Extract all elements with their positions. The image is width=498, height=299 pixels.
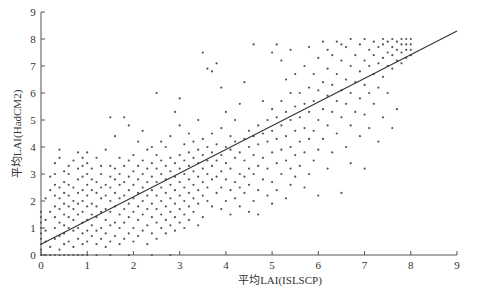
data-point [299, 116, 301, 118]
data-point [271, 108, 273, 110]
data-point [350, 162, 352, 164]
scatter-points [40, 38, 412, 256]
data-point [68, 216, 70, 218]
data-point [54, 173, 56, 175]
data-point [220, 186, 222, 188]
data-point [345, 146, 347, 148]
data-point [142, 213, 144, 215]
data-point [243, 192, 245, 194]
data-point [82, 243, 84, 245]
data-point [72, 219, 74, 221]
data-point [313, 100, 315, 102]
data-point [45, 219, 47, 221]
data-point [327, 124, 329, 126]
data-point [160, 200, 162, 202]
data-point [206, 68, 208, 70]
data-point [225, 146, 227, 148]
data-point [243, 176, 245, 178]
data-point [350, 92, 352, 94]
data-point [105, 149, 107, 151]
data-point [95, 192, 97, 194]
data-point [146, 208, 148, 210]
data-point [114, 168, 116, 170]
data-point [82, 189, 84, 191]
data-point [211, 151, 213, 153]
data-point [202, 154, 204, 156]
data-point [308, 111, 310, 113]
data-point [197, 203, 199, 205]
data-point [234, 119, 236, 121]
data-point [174, 203, 176, 205]
data-point [77, 203, 79, 205]
data-point [49, 211, 51, 213]
data-point [229, 168, 231, 170]
data-point [68, 195, 70, 197]
data-point [303, 103, 305, 105]
data-point [174, 162, 176, 164]
data-point [156, 92, 158, 94]
data-point [179, 222, 181, 224]
data-point [327, 68, 329, 70]
data-point [160, 141, 162, 143]
data-point [132, 154, 134, 156]
data-point [123, 208, 125, 210]
x-axis-ticks: 0123456789 [38, 251, 460, 271]
data-point [391, 38, 393, 40]
data-point [202, 51, 204, 53]
data-point [303, 127, 305, 129]
data-point [132, 184, 134, 186]
data-point [202, 138, 204, 140]
data-point [91, 224, 93, 226]
data-point [294, 154, 296, 156]
data-point [387, 51, 389, 53]
data-point [313, 130, 315, 132]
data-point [410, 38, 412, 40]
data-point [91, 168, 93, 170]
data-point [183, 186, 185, 188]
x-tick-label: 4 [223, 259, 229, 271]
data-point [303, 65, 305, 67]
data-point [142, 173, 144, 175]
data-point [377, 141, 379, 143]
y-tick-label: 0 [30, 249, 36, 261]
data-point [151, 232, 153, 234]
data-point [68, 240, 70, 242]
data-point [132, 170, 134, 172]
data-point [359, 97, 361, 99]
data-point [188, 178, 190, 180]
data-point [313, 159, 315, 161]
data-point [225, 200, 227, 202]
data-point [45, 197, 47, 199]
data-point [119, 243, 121, 245]
data-point [317, 57, 319, 59]
data-point [350, 124, 352, 126]
data-point [336, 132, 338, 134]
data-point [257, 143, 259, 145]
data-point [119, 157, 121, 159]
data-point [317, 195, 319, 197]
data-point [165, 205, 167, 207]
data-point [229, 213, 231, 215]
data-point [234, 181, 236, 183]
data-point [364, 114, 366, 116]
data-point [253, 43, 255, 45]
data-point [400, 62, 402, 64]
data-point [359, 43, 361, 45]
y-axis-label: 平均LAI(HadCM2) [11, 89, 24, 178]
data-point [109, 200, 111, 202]
data-point [183, 213, 185, 215]
data-point [183, 200, 185, 202]
data-point [276, 189, 278, 191]
data-point [364, 38, 366, 40]
data-point [248, 130, 250, 132]
data-point [280, 100, 282, 102]
data-point [350, 38, 352, 40]
data-point [373, 103, 375, 105]
data-point [128, 189, 130, 191]
data-point [299, 165, 301, 167]
data-point [368, 92, 370, 94]
data-point [86, 162, 88, 164]
data-point [262, 132, 264, 134]
data-point [123, 238, 125, 240]
data-point [248, 211, 250, 213]
